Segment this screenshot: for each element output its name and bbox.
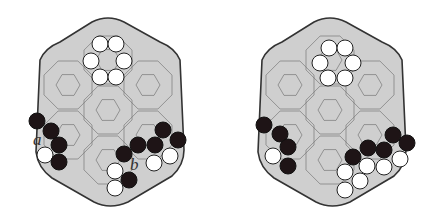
game-diagram: ab (0, 0, 444, 214)
white-stone (337, 40, 353, 56)
black-stone (121, 172, 137, 188)
black-stone (376, 142, 392, 158)
black-stone (170, 132, 186, 148)
white-stone (352, 173, 368, 189)
white-stone (345, 55, 361, 71)
black-stone (51, 137, 67, 153)
black-stone (43, 123, 59, 139)
white-stone (265, 148, 281, 164)
white-stone (337, 182, 353, 198)
white-stone (321, 40, 337, 56)
black-stone (399, 135, 415, 151)
white-stone (37, 147, 53, 163)
board-right (256, 18, 415, 206)
point-label-a: a (33, 130, 42, 149)
black-stone (155, 122, 171, 138)
white-stone (392, 151, 408, 167)
black-stone (147, 137, 163, 153)
white-stone (92, 69, 108, 85)
black-stone (256, 117, 272, 133)
black-stone (280, 139, 296, 155)
black-stone (345, 149, 361, 165)
white-stone (107, 163, 123, 179)
white-stone (108, 69, 124, 85)
white-stone (83, 53, 99, 69)
white-stone (337, 70, 353, 86)
white-stone (92, 36, 108, 52)
board-left: ab (29, 18, 186, 206)
black-stone (360, 140, 376, 156)
white-stone (359, 158, 375, 174)
white-stone (320, 70, 336, 86)
black-stone (29, 113, 45, 129)
white-stone (312, 55, 328, 71)
point-label-b: b (130, 155, 139, 174)
white-stone (376, 159, 392, 175)
white-stone (146, 155, 162, 171)
white-stone (116, 53, 132, 69)
black-stone (385, 127, 401, 143)
black-stone (130, 137, 146, 153)
white-stone (337, 164, 353, 180)
black-stone (280, 158, 296, 174)
black-stone (51, 154, 67, 170)
white-stone (108, 36, 124, 52)
white-stone (107, 180, 123, 196)
white-stone (162, 148, 178, 164)
